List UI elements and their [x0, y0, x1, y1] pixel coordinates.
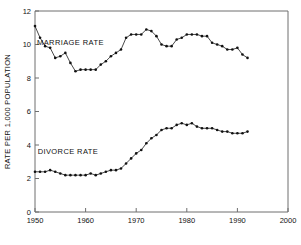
y-tick-label: 2 — [27, 174, 31, 183]
data-point — [175, 124, 178, 127]
data-point — [74, 70, 77, 73]
data-point — [236, 47, 239, 50]
y-axis-tick-labels: 024681012 — [23, 7, 31, 217]
data-point — [120, 167, 123, 170]
data-point — [226, 48, 229, 51]
data-point — [216, 43, 219, 46]
data-point — [160, 129, 163, 132]
data-point — [34, 25, 37, 28]
y-tick-label: 12 — [23, 7, 31, 16]
data-point — [175, 38, 178, 41]
data-point — [221, 45, 224, 48]
data-point — [191, 122, 194, 125]
y-axis-title-text: RATE PER 1,000 POPULATION — [3, 54, 12, 169]
data-point — [110, 169, 113, 172]
data-point — [34, 171, 37, 174]
data-point — [140, 149, 143, 152]
data-point — [145, 142, 148, 145]
series-marriage-rate — [34, 25, 249, 73]
x-axis-ticks — [35, 208, 288, 212]
data-point — [211, 42, 214, 45]
data-point — [135, 152, 138, 155]
x-tick-label: 1990 — [229, 216, 246, 225]
series-line — [35, 26, 248, 71]
data-point — [125, 162, 128, 165]
data-point — [69, 174, 72, 177]
data-point — [165, 45, 168, 48]
data-point — [49, 47, 52, 50]
data-point — [216, 129, 219, 132]
data-point — [54, 171, 57, 174]
data-point — [64, 174, 67, 177]
series-annotation-label: MARRIAGE RATE — [37, 38, 104, 47]
data-point — [241, 53, 244, 56]
data-point — [226, 130, 229, 133]
data-point — [191, 33, 194, 36]
data-point — [170, 45, 173, 48]
data-point — [206, 127, 209, 130]
data-point — [155, 35, 158, 38]
data-point — [180, 37, 183, 40]
y-axis-title: RATE PER 1,000 POPULATION — [3, 54, 12, 169]
data-point — [140, 33, 143, 36]
data-point — [99, 63, 102, 66]
data-point — [105, 171, 108, 174]
data-point — [231, 132, 234, 135]
data-point — [186, 33, 189, 36]
data-point — [201, 35, 204, 38]
data-point — [110, 55, 113, 58]
data-point — [89, 172, 92, 175]
data-point — [94, 68, 97, 71]
data-point — [99, 172, 102, 175]
data-point — [84, 68, 87, 71]
data-point — [64, 52, 67, 55]
series-annotation-label: DIVORCE RATE — [38, 147, 99, 156]
data-point — [115, 169, 118, 172]
data-point — [79, 68, 82, 71]
data-point — [196, 125, 199, 128]
y-tick-label: 10 — [23, 40, 31, 49]
data-point — [84, 174, 87, 177]
data-point — [145, 28, 148, 31]
data-point — [39, 171, 42, 174]
series-annotations: MARRIAGE RATEDIVORCE RATE — [37, 38, 104, 157]
data-point — [130, 157, 133, 160]
data-point — [196, 33, 199, 36]
data-point — [125, 37, 128, 40]
data-point — [231, 48, 234, 51]
data-point — [69, 62, 72, 65]
data-point — [160, 43, 163, 46]
data-point — [130, 33, 133, 36]
data-point — [150, 137, 153, 140]
data-point — [54, 57, 57, 60]
x-tick-label: 2000 — [280, 216, 297, 225]
x-axis-tick-labels: 195019601970198019902000 — [27, 216, 297, 225]
data-point — [155, 134, 158, 137]
data-point — [165, 127, 168, 130]
y-tick-label: 8 — [27, 74, 31, 83]
data-point — [59, 55, 62, 58]
data-point — [246, 130, 249, 133]
data-point — [206, 35, 209, 38]
x-tick-label: 1950 — [27, 216, 44, 225]
data-point — [105, 60, 108, 63]
data-point — [89, 68, 92, 71]
data-point — [241, 132, 244, 135]
data-point — [120, 48, 123, 51]
data-point — [79, 174, 82, 177]
x-tick-label: 1970 — [128, 216, 145, 225]
data-point — [236, 132, 239, 135]
data-point — [180, 122, 183, 125]
chart-container: 195019601970198019902000 024681012 MARRI… — [0, 0, 301, 245]
data-point — [186, 124, 189, 127]
data-point — [211, 127, 214, 130]
x-tick-label: 1960 — [77, 216, 94, 225]
data-point — [246, 57, 249, 60]
data-point — [49, 169, 52, 172]
data-point — [115, 52, 118, 55]
y-tick-label: 0 — [27, 208, 31, 217]
data-point — [94, 174, 97, 177]
data-point — [135, 33, 138, 36]
data-point — [74, 174, 77, 177]
marriage-divorce-rate-chart: 195019601970198019902000 024681012 MARRI… — [0, 0, 301, 245]
